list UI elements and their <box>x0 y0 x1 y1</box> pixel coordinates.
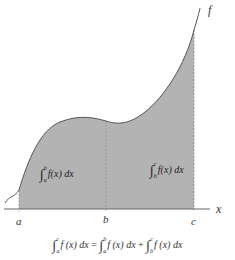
region-right-integral: ∫cbf(x) dx <box>150 162 184 177</box>
integral-diagram <box>0 0 235 260</box>
additivity-formula: ∫caf (x) dx = ∫baf (x) dx + ∫cbf (x) dx <box>0 236 235 252</box>
point-label-b: b <box>103 214 109 225</box>
region-left-integral: ∫baf(x) dx <box>40 166 74 181</box>
point-label-a: a <box>16 216 22 227</box>
point-label-c: c <box>191 216 196 227</box>
curve-label: f <box>208 4 211 16</box>
axis-label-x: x <box>216 203 221 215</box>
